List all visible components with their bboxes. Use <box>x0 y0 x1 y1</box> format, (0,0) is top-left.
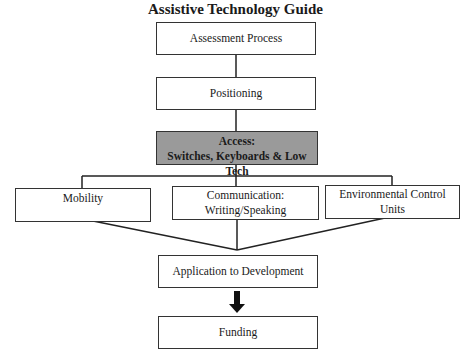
node-assessment-process: Assessment Process <box>156 22 316 55</box>
node-label-line2: Switches, Keyboards & Low Tech <box>157 149 317 179</box>
node-application-to-development: Application to Development <box>158 255 318 288</box>
node-label-line1: Access: <box>157 134 317 149</box>
node-environmental-control: Environmental Control Units <box>325 185 460 219</box>
node-label-line1: Environmental Control <box>326 187 459 202</box>
node-mobility: Mobility <box>15 188 151 222</box>
node-label: Funding <box>219 326 257 338</box>
node-label: Application to Development <box>173 265 304 277</box>
node-label: Mobility <box>63 192 103 204</box>
node-label-line2: Writing/Speaking <box>173 203 318 218</box>
node-label-line2: Units <box>326 202 459 217</box>
node-access: Access: Switches, Keyboards & Low Tech <box>156 131 318 165</box>
node-communication: Communication: Writing/Speaking <box>172 186 319 220</box>
node-label: Assessment Process <box>190 32 282 44</box>
node-funding: Funding <box>158 316 318 349</box>
node-positioning: Positioning <box>156 77 316 110</box>
node-label-line1: Communication: <box>173 188 318 203</box>
down-arrow-icon <box>229 291 245 313</box>
node-label: Positioning <box>210 87 262 99</box>
